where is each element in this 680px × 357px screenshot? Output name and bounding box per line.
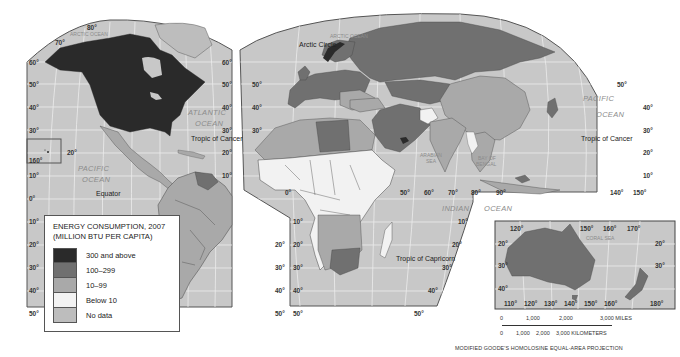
lat-label: 50°	[414, 310, 424, 317]
lat-label: 40°	[428, 287, 438, 294]
lat-label: 30°	[29, 127, 39, 134]
australia-inset	[495, 221, 675, 309]
legend-label: 100–299	[86, 266, 115, 275]
legend-item-100-299: 100–299	[53, 263, 171, 278]
lat-label: 50°	[617, 81, 627, 88]
lat-label: 40°	[498, 285, 508, 292]
lon-label: 150°	[580, 225, 594, 232]
lat-label: 10°	[458, 218, 468, 225]
lat-label: 20°	[655, 240, 665, 247]
lat-label: 30°	[293, 264, 303, 271]
scale-tick-label: 1,000	[526, 315, 540, 321]
lat-label: 20°	[222, 149, 232, 156]
lat-label: 20°	[452, 241, 462, 248]
lat-label: 30°	[275, 264, 285, 271]
projection-caption: MODIFIED GOODE'S HOMOLOSINE EQUAL-AREA P…	[455, 345, 623, 351]
atlantic-label-1: ATLANTIC	[187, 108, 226, 117]
legend-swatch	[53, 308, 77, 323]
lat-label: 10°	[222, 172, 232, 179]
legend-label: No data	[86, 311, 112, 320]
lon-label: 90°	[496, 189, 506, 196]
legend-label: 300 and above	[86, 251, 136, 260]
lon-label: 150°	[584, 300, 598, 307]
lat-label: 40°	[29, 287, 39, 294]
legend-label: Below 10	[86, 296, 117, 305]
lat-label: 20°	[643, 149, 653, 156]
legend-item-no-data: No data	[53, 308, 171, 323]
lat-label: 50°	[29, 81, 39, 88]
lat-label: 70°	[55, 39, 65, 46]
lon-label: 50°	[400, 189, 410, 196]
lat-label: 40°	[29, 104, 39, 111]
lat-label: 10°	[29, 218, 39, 225]
lat-label: 80°	[87, 24, 97, 31]
lat-label: 40°	[252, 104, 262, 111]
scale-tick-label: 3,000 MILES	[600, 315, 632, 321]
lon-label: 180°	[650, 300, 664, 307]
legend-item-below-10: Below 10	[53, 293, 171, 308]
legend-title-line2: (MILLION BTU PER CAPITA)	[53, 232, 171, 242]
lat-label: 30°	[643, 127, 653, 134]
lat-label: 50°	[222, 81, 232, 88]
lon-label: 120°	[524, 300, 538, 307]
tropic-cancer-e-label: Tropic of Cancer	[581, 135, 633, 143]
scale-line	[502, 325, 612, 329]
lat-label: 60°	[29, 59, 39, 66]
scale-km: 0 1,000 2,000 3,000 KILOMETERS	[496, 330, 680, 339]
lat-label: 30°	[222, 127, 232, 134]
lat-label: 20°	[29, 241, 39, 248]
scale-tick-label: 3,000 KILOMETERS	[556, 330, 607, 336]
lat-label: 50°	[252, 81, 262, 88]
lon-label: 160°	[29, 157, 43, 164]
bay-of-bengal-label-2: BENGAL	[476, 161, 497, 167]
legend-swatch	[53, 263, 77, 278]
pacific-e-label-2: OCEAN	[596, 110, 624, 119]
lon-label: 110°	[504, 300, 517, 307]
legend: ENERGY CONSUMPTION, 2007 (MILLION BTU PE…	[44, 215, 180, 332]
scale-tick-label: 2,000	[559, 315, 573, 321]
legend-label: 10–99	[86, 281, 107, 290]
lat-label: 40°	[222, 104, 232, 111]
tropic-capricorn-label: Tropic of Capricorn	[396, 255, 455, 263]
scale-tick-label: 0	[500, 315, 503, 321]
lat-label: 40°	[293, 287, 303, 294]
lon-label: 160°	[603, 225, 617, 232]
lat-label: 30°	[29, 264, 39, 271]
legend-swatch	[53, 278, 77, 293]
lat-label: 30°	[655, 262, 665, 269]
scale-tick-label: 1,000	[516, 330, 530, 336]
lon-label: 80°	[471, 189, 481, 196]
lat-label: 20°	[498, 240, 508, 247]
lon-label: 160°	[604, 300, 618, 307]
lon-label: 70°	[448, 189, 458, 196]
arctic-ocean-label-e: ARCTIC OCEAN	[330, 33, 368, 39]
lon-label: 130°	[544, 300, 558, 307]
atlantic-label-2: OCEAN	[195, 119, 223, 128]
indian-label-2: OCEAN	[484, 204, 512, 213]
pacific-w-label-2: OCEAN	[82, 175, 110, 184]
lat-label: 40°	[643, 104, 653, 111]
lat-label: 60°	[222, 59, 232, 66]
legend-title-line1: ENERGY CONSUMPTION, 2007	[53, 222, 171, 232]
pacific-e-label-1: PACIFIC	[583, 94, 614, 103]
lat-label: 30°	[498, 262, 508, 269]
lat-label: 10°	[293, 218, 303, 225]
legend-item-300-above: 300 and above	[53, 248, 171, 263]
lat-label: 20°	[67, 149, 77, 156]
scale-bar: 0 1,000 2,000 3,000 MILES 0 1,000 2,000 …	[496, 315, 680, 339]
arctic-ocean-label-w: ARCTIC OCEAN	[70, 31, 108, 37]
legend-items: 300 and above 100–299 10–99 Below 10 No …	[53, 248, 171, 323]
legend-swatch	[53, 293, 77, 308]
lat-label: 20°	[275, 241, 285, 248]
scale-miles: 0 1,000 2,000 3,000 MILES	[496, 315, 680, 324]
lon-label: 170°	[627, 225, 641, 232]
arctic-circle-label: Arctic Circle	[299, 41, 336, 48]
lon-label: 120°	[510, 225, 524, 232]
lon-label: 60°	[424, 189, 434, 196]
libya	[316, 120, 350, 152]
lon-label: 0°	[285, 189, 292, 196]
lat-label: 50°	[275, 310, 285, 317]
scale-tick-label: 2,000	[536, 330, 550, 336]
arabian-sea-label-2: SEA	[426, 158, 437, 164]
lat-label: 20°	[293, 241, 303, 248]
